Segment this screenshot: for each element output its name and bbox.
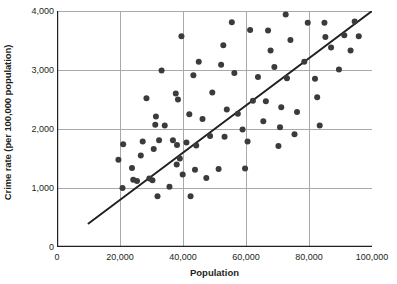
data-point <box>312 76 318 82</box>
data-point <box>294 109 300 115</box>
data-point <box>301 59 307 65</box>
data-point <box>263 98 269 104</box>
data-point <box>260 118 266 124</box>
y-axis-tick-labels: 01,0002,0003,0004,000 <box>10 0 54 284</box>
data-point <box>292 131 298 137</box>
data-point <box>356 33 362 39</box>
data-point <box>245 138 251 144</box>
data-point <box>170 137 176 143</box>
trendline <box>89 11 373 223</box>
x-axis-title: Population <box>57 267 372 278</box>
x-tick-label: 60,000 <box>216 252 276 262</box>
data-point <box>151 146 157 152</box>
data-point <box>247 27 253 33</box>
data-point <box>336 66 342 72</box>
data-point <box>166 184 172 190</box>
data-point <box>229 19 235 25</box>
data-point <box>175 97 181 103</box>
data-point <box>154 193 160 199</box>
scatter-plot-figure: Crime rate (per 100,000 population) 01,0… <box>0 0 397 284</box>
data-point <box>348 48 354 54</box>
data-point <box>129 165 135 171</box>
data-point <box>152 122 158 128</box>
data-point <box>322 34 328 40</box>
data-point <box>186 111 192 117</box>
data-point <box>193 143 199 149</box>
x-tick-label: 20,000 <box>90 252 150 262</box>
y-tick-label: 2,000 <box>16 124 54 134</box>
data-point <box>328 45 334 51</box>
data-points <box>115 12 361 200</box>
data-point <box>265 27 271 33</box>
data-point <box>120 185 126 191</box>
x-axis-tick-labels: 020,00040,00060,00080,000100,000 <box>0 252 397 266</box>
data-point <box>209 89 215 95</box>
data-point <box>271 64 277 70</box>
data-point <box>250 98 256 104</box>
data-point <box>153 114 159 120</box>
data-point <box>200 116 206 122</box>
data-point <box>283 12 289 18</box>
data-point <box>120 141 126 147</box>
data-point <box>235 111 241 117</box>
data-point <box>255 74 261 80</box>
data-point <box>284 75 290 81</box>
data-point <box>231 70 237 76</box>
data-point <box>278 104 284 110</box>
data-point <box>222 134 228 140</box>
data-point <box>134 178 140 184</box>
x-tick-label: 0 <box>27 252 87 262</box>
data-point <box>242 166 248 172</box>
data-point <box>240 127 246 133</box>
data-point <box>305 20 311 26</box>
data-point <box>149 177 155 183</box>
plot-area <box>57 11 372 247</box>
data-point <box>188 193 194 199</box>
x-tick-label: 80,000 <box>279 252 339 262</box>
data-point <box>341 32 347 38</box>
y-tick-label: 4,000 <box>16 6 54 16</box>
data-point <box>287 37 293 43</box>
data-point <box>275 143 281 149</box>
data-point <box>180 171 186 177</box>
data-point <box>196 59 202 65</box>
data-point <box>192 167 198 173</box>
data-point <box>138 153 144 159</box>
data-point <box>162 122 168 128</box>
data-point <box>268 48 274 54</box>
data-point <box>115 157 121 163</box>
data-point <box>216 166 222 172</box>
x-tick-label: 100,000 <box>342 252 397 262</box>
data-point <box>156 137 162 143</box>
data-point <box>178 33 184 39</box>
data-point <box>140 138 146 144</box>
data-point <box>183 140 189 146</box>
data-point <box>224 107 230 113</box>
plot-svg <box>57 11 372 247</box>
y-tick-label: 3,000 <box>16 65 54 75</box>
data-point <box>207 133 213 139</box>
data-point <box>174 161 180 167</box>
data-point <box>190 72 196 78</box>
x-tick-label: 40,000 <box>153 252 213 262</box>
data-point <box>203 175 209 181</box>
data-point <box>352 19 358 25</box>
data-point <box>143 95 149 101</box>
data-point <box>174 142 180 148</box>
y-tick-label: 0 <box>16 242 54 252</box>
data-point <box>277 124 283 130</box>
data-point <box>317 122 323 128</box>
data-point <box>220 42 226 48</box>
y-tick-label: 1,000 <box>16 183 54 193</box>
data-point <box>218 62 224 68</box>
data-point <box>173 91 179 97</box>
data-point <box>159 68 165 74</box>
data-point <box>177 156 183 162</box>
data-point <box>314 94 320 100</box>
data-point <box>321 20 327 26</box>
